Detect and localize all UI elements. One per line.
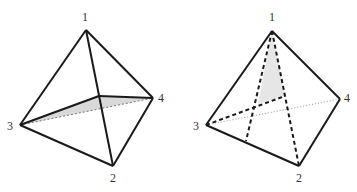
right-edge-4-2 <box>299 99 340 166</box>
right-dashed-3-q <box>206 96 285 125</box>
left-vertex-label-1: 1 <box>82 10 88 24</box>
left-tetrahedron: 1 2 3 4 <box>7 10 164 185</box>
tetrahedra-diagram: 1 2 3 4 1 2 3 4 <box>0 0 357 192</box>
right-vertex-label-3: 3 <box>193 119 199 133</box>
left-edge-4-2 <box>113 98 153 166</box>
left-vertex-label-3: 3 <box>7 119 13 133</box>
right-tetrahedron: 1 2 3 4 <box>193 10 350 185</box>
right-vertex-label-1: 1 <box>269 10 275 24</box>
left-edge-3-2 <box>20 125 113 166</box>
right-edge-3-2 <box>206 125 299 166</box>
left-edge-1-4 <box>86 30 153 98</box>
right-shaded-triangle <box>258 31 285 104</box>
right-edge-3-4-hidden <box>206 99 340 125</box>
right-edge-1-3 <box>206 31 272 125</box>
left-vertex-label-2: 2 <box>110 171 116 185</box>
left-vertex-label-4: 4 <box>158 91 164 105</box>
right-vertex-label-4: 4 <box>344 91 350 105</box>
right-vertex-label-2: 2 <box>296 171 302 185</box>
